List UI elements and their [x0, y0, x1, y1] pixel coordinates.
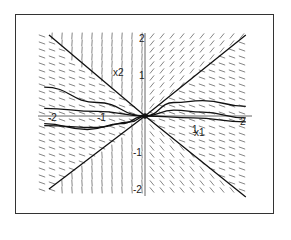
field-segment [219, 161, 225, 163]
field-segment [109, 119, 115, 121]
field-segment [239, 49, 245, 51]
field-segment [190, 174, 194, 179]
field-segment [39, 77, 45, 79]
field-segment [160, 160, 164, 165]
field-segment [239, 63, 245, 65]
field-segment [209, 126, 215, 128]
field-segment [170, 167, 174, 172]
field-segment [170, 174, 174, 179]
field-segment [190, 69, 194, 74]
field-segment [239, 84, 245, 86]
field-segment [230, 188, 234, 193]
field-segment [160, 174, 164, 179]
field-segment [49, 140, 55, 142]
field-segment [39, 63, 45, 65]
field-segment [49, 49, 55, 51]
field-segment [200, 174, 204, 179]
field-segment [49, 161, 55, 163]
field-segment [229, 63, 235, 65]
field-segment [189, 147, 195, 149]
field-segment [89, 98, 95, 100]
field-segment [179, 112, 185, 114]
field-segment [49, 154, 55, 156]
field-segment [170, 146, 174, 151]
field-segment [190, 55, 194, 60]
field-segment [239, 42, 245, 44]
field-segment [39, 112, 45, 114]
field-segment [209, 147, 215, 149]
field-segment [69, 84, 75, 86]
field-segment [239, 133, 245, 135]
tick-label: -2 [48, 112, 57, 123]
field-segment [229, 77, 235, 79]
field-segment [150, 167, 154, 172]
field-segment [219, 77, 225, 79]
field-segment [160, 41, 164, 46]
field-segment [39, 84, 45, 86]
field-segment [239, 154, 245, 156]
field-segment [59, 105, 65, 107]
field-segment [169, 112, 175, 114]
field-segment [189, 140, 195, 142]
field-segment [39, 119, 45, 121]
field-segment [180, 76, 184, 81]
field-segment [209, 154, 215, 156]
field-segment [49, 105, 55, 107]
field-segment [160, 48, 164, 53]
field-segment [180, 174, 184, 179]
field-segment [239, 168, 245, 170]
field-segment [49, 189, 55, 191]
field-segment [49, 77, 55, 79]
field-segment [59, 175, 65, 177]
field-segment [150, 69, 154, 74]
field-segment [180, 48, 184, 53]
field-segment [239, 189, 245, 191]
field-segment [209, 98, 215, 100]
field-segment [209, 70, 215, 72]
field-segment [189, 84, 195, 86]
field-segment [179, 91, 185, 93]
field-segment [150, 181, 154, 186]
field-segment [79, 119, 85, 121]
field-segment [220, 181, 224, 186]
field-segment [229, 49, 235, 51]
field-segment [209, 77, 215, 79]
field-segment [39, 175, 45, 177]
field-segment [150, 76, 154, 81]
field-segment [169, 126, 175, 128]
field-segment [219, 154, 225, 156]
field-segment [229, 133, 235, 135]
field-segment [209, 84, 215, 86]
field-segment [49, 168, 55, 170]
field-segment [229, 154, 235, 156]
field-segment [170, 160, 174, 165]
field-segment [170, 188, 174, 193]
field-segment [200, 55, 204, 60]
field-segment [170, 34, 174, 39]
field-segment [199, 140, 205, 142]
field-segment [199, 77, 205, 79]
field-segment [150, 153, 154, 158]
field-segment [170, 41, 174, 46]
field-segment [160, 181, 164, 186]
field-segment [229, 112, 235, 114]
field-segment [79, 84, 85, 86]
field-segment [179, 98, 185, 100]
field-segment [189, 105, 195, 107]
field-segment [49, 182, 55, 184]
field-segment [150, 83, 154, 88]
field-segment [79, 91, 85, 93]
field-segment [200, 62, 204, 67]
field-segment [59, 119, 65, 121]
field-segment [39, 91, 45, 93]
field-segment [69, 63, 75, 65]
field-segment [179, 140, 185, 142]
field-segment [160, 76, 164, 81]
field-segment [99, 84, 105, 86]
x-axis-label: x1 [194, 127, 205, 138]
field-segment [39, 42, 45, 44]
field-segment [220, 41, 224, 46]
field-segment [180, 188, 184, 193]
field-segment [39, 98, 45, 100]
field-segment [220, 188, 224, 193]
